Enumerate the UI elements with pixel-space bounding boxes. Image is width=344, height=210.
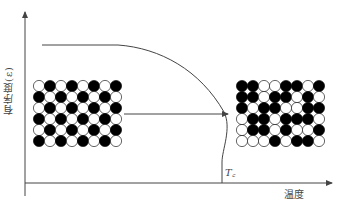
order-disorder-diagram — [0, 0, 344, 210]
ordered-lattice — [33, 80, 121, 146]
critical-temperature-label: T꜀ — [225, 165, 235, 179]
y-axis-label: 有序度(ε) — [3, 66, 17, 115]
x-axis-label: 温度 — [284, 186, 304, 201]
disordered-lattice — [236, 80, 324, 146]
